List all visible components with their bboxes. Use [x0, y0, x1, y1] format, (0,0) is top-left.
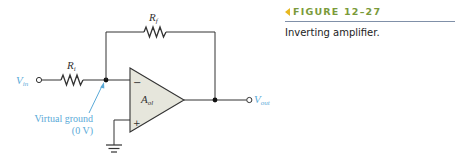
output-junction-dot: [213, 98, 218, 103]
figure-caption: FIGURE 12–27 Inverting amplifier.: [285, 6, 455, 39]
input-terminal: [36, 77, 41, 82]
noninverting-input-sign: +: [133, 118, 141, 128]
figure-description: Inverting amplifier.: [285, 26, 455, 39]
virtual-ground-pointer: [89, 86, 102, 113]
vout-label: Vout: [254, 93, 271, 107]
rf-resistor: [144, 27, 166, 37]
virtual-ground-value: (0 V): [72, 125, 93, 137]
ri-label: Ri: [66, 59, 76, 73]
caption-divider: [285, 21, 455, 22]
figure-number: FIGURE 12–27: [285, 6, 455, 18]
virtual-ground-label: Virtual ground: [34, 113, 93, 124]
vin-label: Vin: [16, 74, 29, 88]
ground-icon: [106, 145, 122, 152]
inverting-input-sign: −: [133, 77, 141, 88]
rf-label: Rf: [148, 11, 159, 25]
caret-left-icon: [285, 8, 290, 16]
ground-wire: [114, 120, 130, 145]
ri-resistor: [61, 75, 83, 85]
feedback-wire-right: [166, 32, 215, 100]
output-terminal: [247, 97, 252, 102]
figure-number-text: FIGURE 12–27: [293, 6, 381, 18]
pointer-arrowhead: [100, 82, 104, 89]
